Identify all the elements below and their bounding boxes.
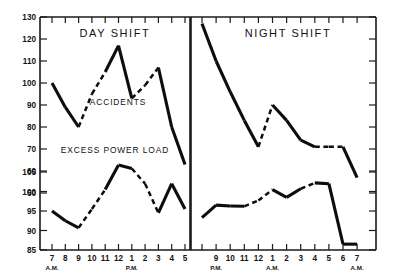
line-night-power-segment-7: [301, 183, 315, 189]
y-axis-label-lower-4: 85: [27, 246, 37, 255]
line-day-power-segment-0: [52, 211, 65, 221]
x-axis-label-night-4: 12: [254, 254, 264, 263]
line-night-accidents-segment-7: [301, 140, 315, 147]
line-day-power-segment-2: [79, 209, 92, 228]
line-night-accidents-segment-4: [258, 105, 272, 147]
y-axis-label-upper-5: 80: [27, 123, 37, 132]
line-night-power-segment-4: [258, 190, 272, 201]
panel-title-night: NIGHT SHIFT: [245, 27, 331, 39]
line-night-accidents-segment-10: [343, 147, 357, 178]
line-night-accidents-segment-2: [230, 92, 244, 121]
x-period-day-am: A.M.: [45, 264, 58, 271]
x-axis-label-day-7: 2: [143, 254, 148, 263]
x-axis-label-night-3: 11: [240, 254, 249, 263]
line-day-power-segment-5: [119, 165, 132, 169]
y-axis-label-lower-3: 90: [27, 227, 37, 236]
y-axis-label-lower-2: 95: [27, 207, 37, 216]
line-day-power-segment-1: [65, 221, 78, 228]
line-night-accidents-segment-1: [216, 61, 230, 92]
x-period-night-am-end: A.M.: [351, 264, 364, 271]
x-axis-labels: 7891011121234591011121234567A.M.P.M.P.M.…: [45, 254, 363, 271]
y-axis-label-lower-1: 100: [22, 188, 36, 197]
line-day-power-segment-6: [132, 168, 145, 183]
series-label-accidents: ACCIDENTS: [90, 97, 147, 107]
y-axis-ticks-left: [40, 17, 47, 250]
line-night-power-segment-9: [329, 184, 343, 244]
line-night-power-segment-8: [315, 183, 329, 184]
accidents-power-load-chart: 1301201101009080706050105100959085 78910…: [0, 0, 399, 273]
y-axis-label-upper-1: 120: [22, 35, 36, 44]
chart-frame: [40, 17, 376, 250]
line-day-accidents-segment-1: [65, 107, 78, 127]
x-axis-label-night-6: 2: [284, 254, 289, 263]
line-day-accidents-segment-0: [52, 83, 65, 107]
x-period-night-pm: P.M.: [210, 264, 222, 271]
line-day-accidents-segment-8: [158, 68, 171, 127]
x-axis-label-day-5: 12: [114, 254, 124, 263]
chart-figure: 1301201101009080706050105100959085 78910…: [0, 0, 399, 273]
line-night-power-segment-1: [216, 205, 230, 206]
x-period-day-pm: P.M.: [126, 264, 138, 271]
y-axis-label-lower-0: 105: [22, 168, 36, 177]
panel-title-day: DAY SHIFT: [80, 27, 151, 39]
line-night-power-segment-5: [273, 190, 287, 198]
x-axis-label-day-4: 11: [101, 254, 110, 263]
x-axis-label-night-2: 10: [226, 254, 236, 263]
line-day-accidents-segment-9: [172, 127, 185, 164]
y-axis-labels: 1301201101009080706050105100959085: [22, 13, 36, 255]
line-day-accidents-segment-7: [145, 68, 158, 86]
x-axis-label-day-10: 5: [183, 254, 188, 263]
series-label-power: EXCESS POWER LOAD: [61, 145, 169, 155]
line-night-accidents-segment-0: [202, 24, 216, 61]
x-axis-label-night-1: 9: [214, 254, 219, 263]
x-axis-label-night-9: 5: [327, 254, 332, 263]
x-axis-label-day-8: 3: [156, 254, 161, 263]
data-series-lines: [52, 24, 357, 245]
x-axis-label-night-5: 1: [270, 254, 275, 263]
x-axis-label-night-10: 6: [341, 254, 346, 263]
line-day-accidents-segment-4: [105, 46, 118, 72]
x-axis-label-day-0: 7: [50, 254, 55, 263]
x-axis-label-night-8: 4: [313, 254, 318, 263]
y-axis-label-upper-2: 110: [23, 57, 37, 66]
x-axis-label-day-2: 9: [76, 254, 81, 263]
y-axis-label-upper-6: 70: [27, 145, 37, 154]
line-day-accidents-segment-5: [119, 46, 132, 99]
x-axis-label-night-11: 7: [355, 254, 360, 263]
line-night-accidents-segment-3: [244, 120, 258, 146]
x-axis-label-day-3: 10: [87, 254, 97, 263]
x-axis-label-night-7: 3: [298, 254, 303, 263]
x-axis-ticks: [52, 244, 357, 250]
line-day-power-segment-9: [172, 184, 185, 209]
y-axis-ticks-right: [369, 17, 376, 250]
line-day-power-segment-8: [158, 184, 171, 213]
line-night-power-segment-6: [287, 189, 301, 198]
y-axis-label-upper-3: 100: [22, 79, 36, 88]
line-day-power-segment-3: [92, 190, 105, 210]
x-period-night-am: A.M.: [266, 264, 279, 271]
line-night-power-segment-3: [244, 200, 258, 206]
line-day-accidents-segment-3: [92, 72, 105, 94]
y-axis-label-upper-0: 130: [22, 13, 36, 22]
line-night-accidents-segment-6: [287, 120, 301, 140]
top-axis-ticks: [52, 17, 357, 23]
line-night-accidents-segment-5: [273, 105, 287, 120]
x-axis-label-day-1: 8: [63, 254, 68, 263]
line-day-power-segment-4: [105, 165, 118, 190]
x-axis-label-day-9: 4: [169, 254, 174, 263]
x-axis-label-day-6: 1: [130, 254, 135, 263]
y-axis-label-upper-4: 90: [27, 101, 37, 110]
line-day-power-segment-7: [145, 184, 158, 213]
line-night-power-segment-0: [202, 205, 216, 217]
